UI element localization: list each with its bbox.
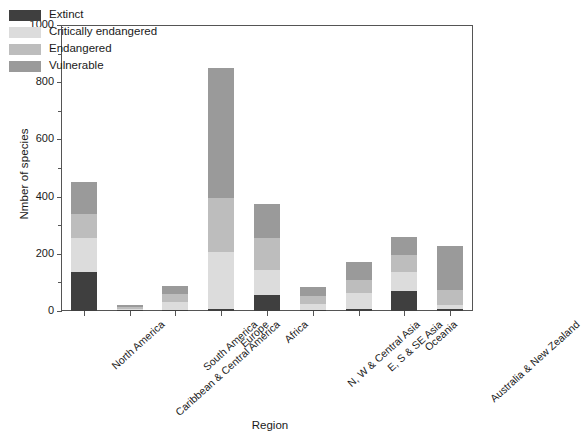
legend-item-2: Endangered (9, 41, 157, 57)
bar-segment (391, 291, 417, 311)
y-axis-minor-tick (0, 168, 62, 169)
bar-4 (254, 25, 280, 311)
bar-segment (300, 287, 326, 296)
bar-segment (254, 238, 280, 269)
y-tick-mark (57, 139, 62, 140)
bar-8 (437, 25, 463, 311)
y-tick-label: 600 (36, 132, 54, 144)
y-tick-mark (57, 82, 62, 83)
legend-item-3: Vulnerable (9, 58, 157, 74)
x-tick-label-4: Africa (282, 318, 310, 345)
y-minor-tick-mark (58, 225, 62, 226)
y-tick-label: 400 (36, 190, 54, 202)
bar-segment (71, 272, 97, 311)
legend-label: Vulnerable (49, 60, 104, 72)
y-axis-minor-tick (0, 282, 62, 283)
bar-7 (391, 25, 417, 311)
y-tick-label: 200 (36, 247, 54, 259)
bar-segment (437, 290, 463, 306)
y-tick-label: 0 (48, 304, 54, 316)
bar-segment (346, 293, 372, 309)
bar-segment (254, 270, 280, 296)
bar-3 (208, 25, 234, 311)
bar-segment (208, 198, 234, 252)
y-axis-tick: 800 (0, 82, 62, 83)
x-axis-title: Region (60, 419, 480, 431)
bar-segment (300, 296, 326, 303)
bar-segment (254, 204, 280, 238)
x-axis-tick (221, 311, 222, 316)
bar-segment (71, 238, 97, 272)
y-axis-title: Nmber of species (18, 94, 30, 254)
y-axis-tick: 400 (0, 197, 62, 198)
bar-segment (437, 246, 463, 290)
bar-segment (162, 286, 188, 295)
x-axis-tick (267, 311, 268, 316)
legend-swatch-icon (9, 10, 41, 21)
x-axis-tick (84, 311, 85, 316)
x-axis-tick (175, 311, 176, 316)
bar-segment (300, 304, 326, 311)
bar-segment (300, 310, 326, 311)
chart-legend: ExtinctCritically endangeredEndangeredVu… (9, 7, 157, 75)
bar-segment (346, 280, 372, 293)
x-axis-tick (404, 311, 405, 316)
legend-item-0: Extinct (9, 7, 157, 23)
bar-segment (117, 309, 143, 310)
legend-item-1: Critically endangered (9, 24, 157, 40)
x-axis-tick (313, 311, 314, 316)
bar-segment (391, 272, 417, 291)
bar-segment (162, 294, 188, 302)
bar-segment (208, 68, 234, 198)
y-tick-label: 800 (36, 75, 54, 87)
bar-segment (254, 295, 280, 311)
bar-segment (117, 307, 143, 309)
y-minor-tick-mark (58, 111, 62, 112)
x-tick-label-1: Caribbean & Central America (173, 318, 282, 418)
bar-segment (162, 302, 188, 309)
y-tick-mark (57, 254, 62, 255)
bar-segment (71, 182, 97, 213)
bar-2 (162, 25, 188, 311)
bar-5 (300, 25, 326, 311)
legend-label: Critically endangered (49, 26, 157, 38)
bar-segment (208, 252, 234, 308)
bar-segment (208, 309, 234, 311)
legend-swatch-icon (9, 61, 41, 72)
bar-segment (71, 214, 97, 238)
legend-label: Endangered (49, 43, 112, 55)
y-axis-tick: 200 (0, 254, 62, 255)
bar-segment (391, 255, 417, 271)
bar-segment (117, 305, 143, 307)
x-axis-tick (359, 311, 360, 316)
bar-segment (346, 309, 372, 311)
x-axis-tick (130, 311, 131, 316)
y-axis-minor-tick (0, 111, 62, 112)
bar-segment (391, 237, 417, 256)
y-minor-tick-mark (58, 168, 62, 169)
y-axis-tick: 0 (0, 311, 62, 312)
legend-label: Extinct (49, 9, 84, 21)
bar-segment (346, 262, 372, 280)
y-tick-mark (57, 197, 62, 198)
y-axis-minor-tick (0, 225, 62, 226)
legend-swatch-icon (9, 27, 41, 38)
x-tick-label-0: North America (109, 318, 166, 371)
x-tick-label-8: Australia & New Zealand (488, 318, 582, 404)
bar-segment (117, 310, 143, 311)
legend-swatch-icon (9, 44, 41, 55)
y-minor-tick-mark (58, 282, 62, 283)
bar-segment (162, 310, 188, 311)
y-axis-tick: 600 (0, 139, 62, 140)
x-axis-tick (450, 311, 451, 316)
bar-segment (437, 309, 463, 311)
bar-segment (437, 305, 463, 309)
y-tick-mark (57, 311, 62, 312)
bar-6 (346, 25, 372, 311)
